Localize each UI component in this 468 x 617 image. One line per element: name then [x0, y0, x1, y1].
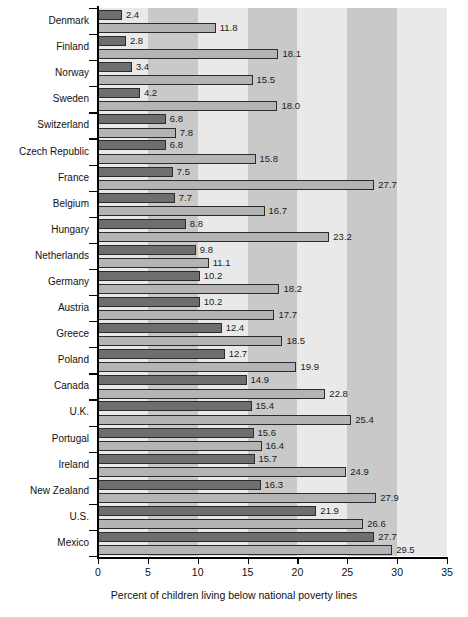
- x-axis-tick: [397, 558, 398, 564]
- x-axis-tick: [447, 558, 448, 564]
- poverty-bar-chart: 2.411.82.818.13.415.54.218.06.87.86.815.…: [0, 0, 468, 617]
- x-axis-tick-label: 25: [341, 566, 353, 578]
- x-axis-tick-label: 15: [242, 566, 254, 578]
- x-axis-tick-label: 20: [292, 566, 304, 578]
- x-axis-tick-label: 5: [145, 566, 151, 578]
- x-axis-tick-label: 30: [391, 566, 403, 578]
- x-axis-tick: [198, 558, 199, 564]
- x-axis-tick: [98, 558, 99, 564]
- x-axis-tick-label: 10: [192, 566, 204, 578]
- x-axis-tick: [148, 558, 149, 564]
- x-axis-tick: [297, 558, 298, 564]
- x-axis-tick: [248, 558, 249, 564]
- x-axis-tick-label: 35: [441, 566, 453, 578]
- x-axis-ticks: 05101520253035: [0, 0, 468, 617]
- x-axis-tick-label: 0: [95, 566, 101, 578]
- x-axis-tick: [347, 558, 348, 564]
